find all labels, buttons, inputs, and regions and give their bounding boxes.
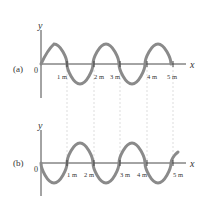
tick-label-b-3m: 3 m: [120, 171, 130, 178]
tick-label-b-1m: 1 m: [67, 171, 77, 178]
tick-label-a-3m: 3 m: [110, 73, 120, 80]
y-axis-label-b: y: [37, 120, 43, 131]
tick-label-b-4m: 4 m: [137, 171, 147, 178]
tick-label-a-1m: 1 m: [57, 73, 67, 80]
tick-label-b-5m: 5 m: [173, 171, 183, 178]
y-axis-label-a: y: [37, 20, 43, 31]
origin-label-b: 0: [34, 165, 38, 174]
origin-label-a: 0: [34, 66, 38, 75]
panel-label-b: (b): [13, 158, 24, 168]
panel-label-a: (a): [13, 64, 23, 74]
x-axis-label-a: x: [189, 59, 195, 70]
panel-b: y x (b) 0 1 m 2 m 3 m 4 m 5 m: [13, 120, 195, 196]
transverse-wave-diagram: y x (a) 0 1 m 2 m 3 m 4 m 5 m y x (b) 0 …: [0, 0, 207, 200]
guide-lines: [67, 66, 173, 162]
tick-label-a-5m: 5 m: [167, 73, 177, 80]
tick-label-a-4m: 4 m: [147, 73, 157, 80]
tick-label-b-2m: 2 m: [84, 171, 94, 178]
x-axis-label-b: x: [189, 158, 195, 169]
tick-label-a-2m: 2 m: [94, 73, 104, 80]
panel-a: y x (a) 0 1 m 2 m 3 m 4 m 5 m: [13, 20, 195, 98]
